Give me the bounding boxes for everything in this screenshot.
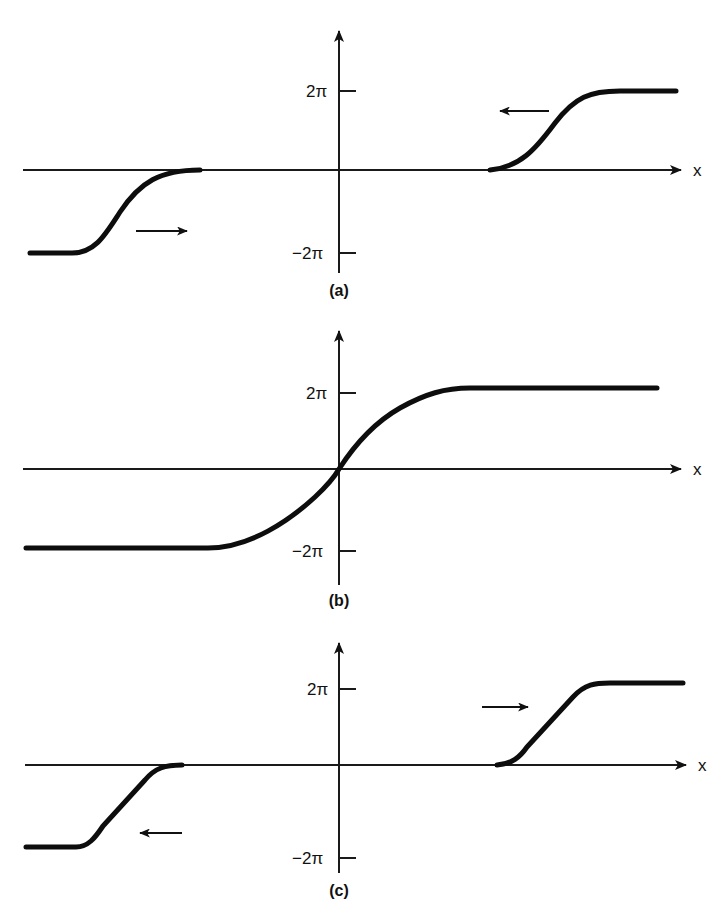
tick-label-neg-2pi: −2π (292, 244, 323, 263)
tick-label-2pi: 2π (306, 384, 327, 403)
curve-left-kink (30, 170, 200, 253)
curve-left-kink (26, 765, 182, 847)
curve-right-kink (497, 683, 683, 765)
tick-label-2pi: 2π (307, 680, 328, 699)
panel-label-c: (c) (329, 882, 349, 899)
kink-soliton-figure: x 2π −2π (a) x 2π −2π (b) x 2π (0, 0, 728, 920)
panel-label-b: (b) (329, 592, 349, 609)
x-axis-label: x (693, 460, 702, 479)
tick-label-neg-2pi: −2π (292, 849, 323, 868)
panel-label-a: (a) (329, 282, 349, 299)
panel-a: x 2π −2π (a) (23, 31, 702, 299)
tick-label-neg-2pi: −2π (292, 542, 323, 561)
x-axis-label: x (693, 161, 702, 180)
panel-c: x 2π −2π (c) (25, 643, 707, 899)
panel-b: x 2π −2π (b) (23, 331, 702, 609)
tick-label-2pi: 2π (306, 82, 327, 101)
curve-right-kink (490, 91, 676, 170)
x-axis-label: x (698, 756, 707, 775)
